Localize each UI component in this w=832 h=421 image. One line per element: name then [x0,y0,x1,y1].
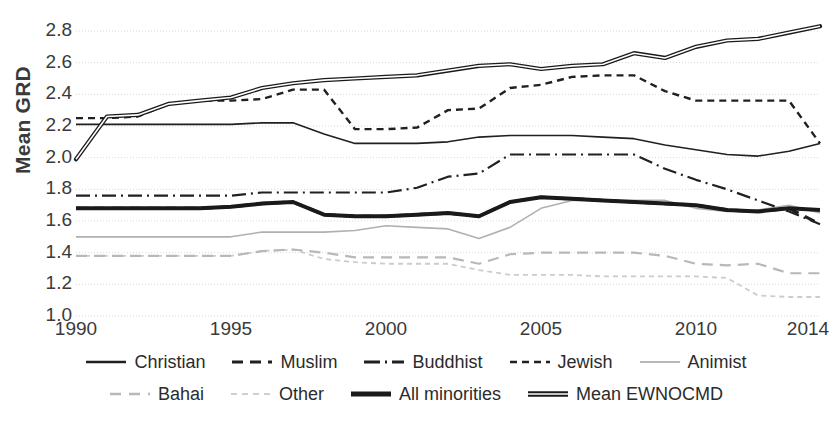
legend-label: Muslim [280,352,337,373]
legend-swatch-icon [509,355,551,369]
x-tick-label: 1995 [210,318,252,340]
legend-row-primary: ChristianMuslimBuddhistJewishAnimist [0,346,832,378]
legend-swatch-icon [109,387,151,401]
legend-label: Jewish [558,352,613,373]
series-muslim [76,197,820,224]
legend-row-secondary: BahaiOtherAll minoritiesMean EWNOCMD [0,378,832,410]
series-christian [76,123,820,156]
series-all-minorities [76,197,820,216]
x-tick-label: 1990 [55,318,97,340]
series-mean-ewnocmd [76,26,820,159]
legend-swatch-icon [527,387,569,401]
legend-item-muslim[interactable]: Muslim [231,352,337,373]
legend-label: Bahai [158,384,204,405]
legend-label: Other [279,384,324,405]
x-tick-label: 2000 [365,318,407,340]
legend-item-all-minorities[interactable]: All minorities [350,384,501,405]
legend-swatch-icon [85,355,127,369]
legend-label: All minorities [399,384,501,405]
legend-swatch-icon [230,387,272,401]
chart-container: Mean GRD 1.01.21.41.61.82.02.22.42.62.8 … [0,0,832,421]
legend-label: Christian [134,352,205,373]
legend-item-mean-ewnocmd[interactable]: Mean EWNOCMD [527,384,723,405]
legend-label: Animist [688,352,747,373]
legend-swatch-icon [639,355,681,369]
series-jewish [76,75,820,143]
legend-item-other[interactable]: Other [230,384,324,405]
legend-swatch-icon [350,387,392,401]
x-tick-label: 2005 [520,318,562,340]
legend-item-bahai[interactable]: Bahai [109,384,204,405]
x-tick-label: 2014 [787,318,829,340]
legend-item-christian[interactable]: Christian [85,352,205,373]
legend-item-animist[interactable]: Animist [639,352,747,373]
plot-area [0,0,832,340]
legend-swatch-icon [231,355,273,369]
legend-label: Mean EWNOCMD [576,384,723,405]
chart-legend: ChristianMuslimBuddhistJewishAnimist Bah… [0,346,832,410]
legend-label: Buddhist [412,352,482,373]
legend-item-jewish[interactable]: Jewish [509,352,613,373]
legend-swatch-icon [363,355,405,369]
x-tick-label: 2010 [675,318,717,340]
legend-item-buddhist[interactable]: Buddhist [363,352,482,373]
